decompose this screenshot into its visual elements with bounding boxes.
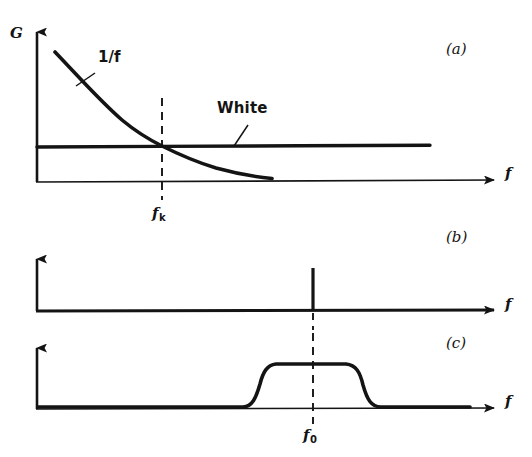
noise-spectra-figure: G 1/f White fk f (a) f (b) f (c) f0 [0, 0, 532, 457]
panel-a-y-axis-label: G [10, 26, 23, 41]
corner-frequency-subscript: k [159, 212, 166, 223]
panel-a-x-axis [36, 180, 494, 182]
panel-a-tag: (a) [446, 42, 467, 57]
panel-b-x-axis-label: f [505, 297, 511, 312]
panel-a-corner-frequency-label: fk [152, 206, 165, 221]
panel-b-group [36, 259, 494, 330]
panel-c-tag: (c) [446, 336, 466, 351]
panel-a-white-noise-leader [234, 125, 248, 146]
pink-noise-text: 1/f [98, 48, 120, 66]
panel-b-x-axis [36, 310, 494, 311]
panel-c-center-frequency-label: f0 [303, 428, 316, 443]
corner-frequency-base: f [152, 204, 158, 222]
panel-c-group [36, 333, 494, 424]
center-frequency-subscript: 0 [310, 434, 317, 445]
panel-c-band-limited-curve [38, 364, 470, 407]
panel-a-white-noise-label: White [217, 101, 268, 116]
panel-a-x-axis-label: f [505, 166, 511, 181]
center-frequency-base: f [303, 426, 309, 444]
panel-c-x-axis-label: f [505, 394, 511, 409]
panel-b-tag: (b) [446, 230, 467, 245]
panel-a-pink-noise-label: 1/f [98, 50, 120, 65]
